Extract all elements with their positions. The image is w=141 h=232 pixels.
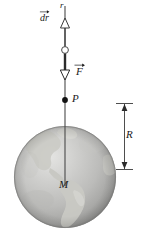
label-r: r — [60, 1, 64, 10]
ring-marker-icon — [62, 47, 69, 54]
label-dr-text: dr — [40, 12, 49, 23]
label-force-vector: F — [76, 66, 83, 77]
label-force-text: F — [76, 65, 83, 77]
label-center-mass-m: M — [59, 179, 68, 190]
label-radius-r: R — [126, 129, 133, 140]
physics-diagram-gravitation: r dr F P M R — [0, 0, 141, 232]
label-point-p: P — [72, 93, 79, 104]
dr-arrowhead-icon — [61, 18, 70, 28]
earth-sphere — [14, 126, 119, 228]
label-dr-vector: dr — [40, 13, 49, 23]
force-arrowhead-icon — [60, 70, 69, 80]
diagram-canvas — [0, 0, 141, 232]
point-p-marker — [62, 97, 68, 103]
